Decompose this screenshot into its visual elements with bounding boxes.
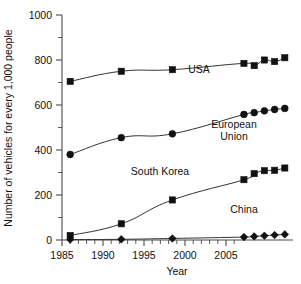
data-point-european-union-2004 — [261, 107, 268, 114]
data-point-china-2004 — [261, 232, 269, 240]
chart-canvas: 0 200 400 600 800 1000 Number of vehicle… — [0, 0, 301, 284]
series-line-south-korea — [70, 168, 285, 236]
y-tick-label-0: 0 — [46, 234, 52, 246]
data-point-usa-2005 — [272, 58, 278, 64]
series-line-usa — [70, 58, 285, 82]
y-tick-label-200: 200 — [34, 189, 52, 201]
y-axis: 0 200 400 600 800 1000 Number of vehicle… — [2, 9, 62, 246]
data-point-european-union-2006 — [281, 105, 288, 112]
data-point-european-union-1995 — [169, 130, 176, 137]
series-european-union — [67, 105, 288, 158]
data-point-usa-1995 — [169, 67, 175, 73]
y-tick-label-1000: 1000 — [29, 9, 53, 21]
series-label-china: China — [230, 203, 258, 215]
data-point-usa-1985 — [67, 78, 73, 84]
data-point-european-union-2005 — [271, 106, 278, 113]
y-axis-title: Number of vehicles for every 1,000 peopl… — [2, 29, 14, 226]
series-china — [66, 231, 288, 244]
data-point-european-union-1985 — [67, 151, 74, 158]
series-label-european-union-line2: Union — [220, 130, 248, 142]
data-point-china-2006 — [281, 231, 289, 239]
vehicles-per-1000-people-line-chart: 0 200 400 600 800 1000 Number of vehicle… — [0, 0, 301, 284]
data-point-european-union-1990 — [118, 134, 125, 141]
data-point-china-2003 — [250, 233, 258, 241]
data-point-south-korea-1990 — [118, 221, 124, 227]
data-point-south-korea-2003 — [251, 171, 257, 177]
x-tick-label-1995: 1995 — [132, 249, 156, 261]
data-point-south-korea-1995 — [169, 197, 175, 203]
data-point-china-1995 — [169, 235, 177, 243]
x-tick-label-2000: 2000 — [173, 249, 197, 261]
data-point-south-korea-2005 — [272, 167, 278, 173]
series-label-south-korea: South Korea — [131, 165, 190, 177]
x-tick-label-1985: 1985 — [50, 249, 74, 261]
series-layer — [66, 55, 288, 244]
data-point-usa-2006 — [282, 55, 288, 61]
data-point-china-1990 — [117, 236, 125, 244]
data-point-usa-1990 — [118, 68, 124, 74]
x-tick-label-2005: 2005 — [214, 249, 238, 261]
page-bottom-artifact — [0, 276, 301, 284]
data-point-south-korea-2006 — [282, 165, 288, 171]
series-annotations: USA European Union South Korea China — [131, 63, 258, 215]
data-point-european-union-2003 — [251, 109, 258, 116]
y-tick-label-800: 800 — [34, 54, 52, 66]
y-tick-label-400: 400 — [34, 144, 52, 156]
x-axis: 1985 1990 1995 2000 2005 Year — [50, 240, 293, 277]
series-label-european-union-line1: European — [211, 118, 257, 130]
data-point-china-2005 — [271, 231, 279, 239]
data-point-south-korea-2002 — [241, 177, 247, 183]
data-point-european-union-2002 — [241, 111, 248, 118]
series-usa — [67, 55, 288, 85]
data-point-usa-2002 — [241, 60, 247, 66]
data-point-usa-2003 — [251, 63, 257, 69]
data-point-south-korea-2004 — [261, 168, 267, 174]
y-tick-label-600: 600 — [34, 99, 52, 111]
x-tick-label-1990: 1990 — [91, 249, 115, 261]
series-label-usa: USA — [188, 63, 210, 75]
data-point-usa-2004 — [261, 57, 267, 63]
